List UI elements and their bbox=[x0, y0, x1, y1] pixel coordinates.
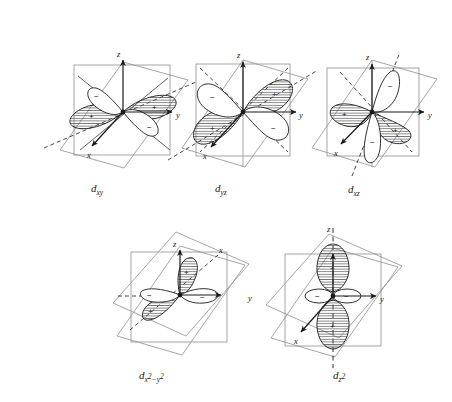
sign-minus-dxy-1: − bbox=[94, 92, 99, 101]
sign-minus-dz2-1: − bbox=[315, 292, 320, 301]
axis-label-x-dz2: x bbox=[293, 336, 298, 346]
axis-label-z-dyz: z bbox=[236, 50, 241, 60]
nucleus-dz2 bbox=[331, 294, 336, 299]
sign-minus-dx2y2-1: − bbox=[200, 293, 205, 302]
sign-plus-dx2y2-2: + bbox=[148, 307, 153, 316]
sign-minus-dz2-2: − bbox=[344, 292, 349, 301]
axis-label-z-dz2: z bbox=[326, 224, 331, 234]
orbital-label-dxz: dxz bbox=[348, 183, 360, 198]
axis-label-x-dxz: x bbox=[333, 148, 338, 158]
sign-minus-dxz-2: − bbox=[370, 138, 375, 147]
sign-plus-dxz-2: + bbox=[393, 126, 398, 135]
sign-plus-dz2-1: + bbox=[330, 264, 335, 273]
orbital-dz2: z y x + + − − dz2 bbox=[266, 224, 402, 384]
axis-label-y-dxy: y bbox=[175, 110, 180, 120]
sign-minus-dxz-1: − bbox=[388, 82, 393, 91]
sign-minus-dyz-2: − bbox=[271, 124, 276, 133]
sign-minus-dxy-2: − bbox=[147, 123, 152, 132]
sign-plus-dxy-2: + bbox=[89, 112, 94, 121]
sign-minus-dx2y2-2: − bbox=[147, 291, 152, 300]
sign-plus-dxy-1: + bbox=[152, 103, 157, 112]
orbital-dxz: z y x + + − − dxz bbox=[312, 52, 437, 198]
sign-plus-dz2-2: + bbox=[330, 322, 335, 331]
orbital-label-dyz: dyz bbox=[215, 182, 227, 197]
nucleus-dxz bbox=[370, 110, 375, 115]
axis-label-y-dyz: y bbox=[298, 110, 303, 120]
nucleus-dyz bbox=[241, 110, 246, 115]
d-orbital-diagram: z y x + + − − dxy z bbox=[0, 0, 452, 402]
sign-plus-dxz-1: + bbox=[342, 110, 347, 119]
nucleus-dx2y2 bbox=[178, 293, 183, 298]
sign-minus-dyz-1: − bbox=[210, 93, 215, 102]
sign-plus-dyz-2: + bbox=[210, 124, 215, 133]
sign-plus-dx2y2-1: + bbox=[184, 268, 189, 277]
orbital-label-dx2y2: dx2−y2 bbox=[139, 369, 164, 384]
sign-plus-dyz-1: + bbox=[272, 90, 277, 99]
axis-label-z-dxy: z bbox=[116, 49, 121, 59]
axis-label-y-dxz: y bbox=[427, 110, 432, 120]
orbital-label-dz2: dz2 bbox=[333, 369, 345, 384]
axis-label-z-dx2y2: z bbox=[172, 239, 177, 249]
orbital-label-dxy: dxy bbox=[91, 182, 104, 197]
axis-label-x-dx2y2: x bbox=[218, 245, 223, 255]
orbital-dx2y2: z y x + + − − dx2−y2 bbox=[113, 232, 252, 384]
axis-label-y-dx2y2: y bbox=[247, 293, 252, 303]
orbital-dxy: z y x + + − − dxy bbox=[44, 49, 196, 197]
axis-label-y-dz2: y bbox=[379, 294, 384, 304]
axis-label-x-dyz: x bbox=[202, 151, 207, 161]
nucleus-dxy bbox=[121, 110, 126, 115]
axis-label-x-dxy: x bbox=[86, 150, 91, 160]
axis-label-z-dxz: z bbox=[365, 52, 370, 62]
orbital-dyz: z y x + + − − dyz bbox=[168, 50, 318, 197]
